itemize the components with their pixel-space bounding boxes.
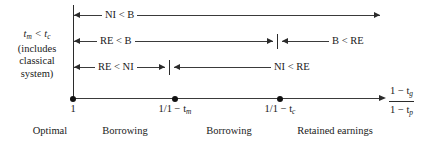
arrow-left-re-lt-ni: [74, 64, 80, 70]
relation-divider-tick-row-3: [169, 60, 170, 75]
regime-note-line-2: classical: [6, 55, 68, 67]
regime-inequality-operator: < t: [32, 28, 47, 39]
axis-label-tm-subscript: m: [186, 107, 191, 116]
axis-variable-denominator-subscript: p: [409, 107, 413, 116]
axis-variable-denominator: 1 − tp: [389, 104, 414, 119]
axis-label-tm: 1/1 − tm: [145, 103, 205, 118]
relation-line-ni-lt-re: [174, 67, 274, 68]
axis-variable-numerator: 1 − tg: [389, 85, 414, 100]
relation-label-ni-lt-re: NI < RE: [271, 59, 313, 74]
region-caption-optimal: Optimal: [20, 124, 80, 137]
axis-variable-numerator-text: 1 − t: [390, 85, 409, 96]
axis-label-tm-prefix: 1/1 − t: [159, 103, 187, 114]
arrow-right-re-lt-b: [267, 38, 273, 44]
axis-label-one: 1: [63, 103, 83, 115]
relation-label-re-lt-ni: RE < NI: [95, 59, 137, 74]
relation-row-re-lt-b: RE < B: [73, 34, 279, 48]
relation-line-b-lt-re: [282, 41, 334, 42]
regime-condition-inequality: tm < tc: [6, 28, 68, 43]
relation-row-b-lt-re: B < RE: [281, 34, 381, 48]
relation-label-b-lt-re: B < RE: [329, 33, 367, 48]
region-caption-borrowing-1: Borrowing: [92, 124, 158, 137]
axis-label-tc-prefix: 1/1 − t: [265, 103, 293, 114]
region-caption-retained-earnings: Retained earnings: [285, 124, 385, 137]
relation-row-ni-lt-re: NI < RE: [173, 60, 333, 74]
tax-regime-number-line-figure: tm < tc (includes classical system) NI <…: [0, 0, 440, 145]
axis-variable-fraction-bar: [389, 101, 414, 102]
axis-variable-denominator-text: 1 − t: [390, 104, 409, 115]
arrow-left-ni-lt-re: [174, 64, 180, 70]
arrow-left-ni-lt-b: [74, 12, 80, 18]
regime-note-line-3: system): [6, 68, 68, 80]
regime-condition-label: tm < tc (includes classical system): [6, 28, 68, 80]
axis-label-tc-subscript: c: [292, 107, 295, 116]
horizontal-axis-line: [73, 98, 380, 99]
regime-tc-subscript: c: [47, 32, 50, 41]
arrow-left-b-lt-re: [282, 38, 288, 44]
horizontal-axis-arrowhead: [379, 95, 386, 101]
relation-label-re-lt-b: RE < B: [97, 33, 135, 48]
arrow-left-re-lt-b: [74, 38, 80, 44]
relation-divider-tick-row-2: [277, 34, 278, 49]
relation-row-ni-lt-b: NI < B: [73, 8, 381, 22]
axis-dot-tm: [172, 96, 178, 102]
axis-label-one-text: 1: [70, 103, 75, 114]
axis-label-tc: 1/1 − tc: [250, 103, 310, 118]
arrow-right-ni-lt-b: [374, 12, 380, 18]
regime-note-line-1: (includes: [6, 43, 68, 55]
axis-dot-tc: [277, 96, 283, 102]
axis-dot-one: [70, 96, 76, 102]
relation-row-re-lt-ni: RE < NI: [73, 60, 173, 74]
relation-label-ni-lt-b: NI < B: [102, 7, 137, 22]
axis-variable-fraction: 1 − tg 1 − tp: [389, 85, 414, 118]
axis-variable-numerator-subscript: g: [409, 89, 413, 98]
arrow-right-re-lt-ni: [159, 64, 165, 70]
region-caption-borrowing-2: Borrowing: [196, 124, 262, 137]
